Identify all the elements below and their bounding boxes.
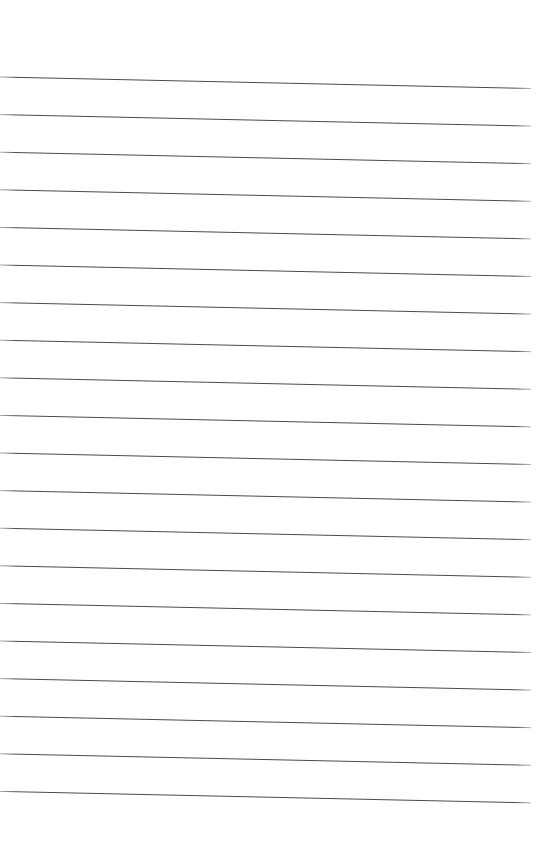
paper-background (0, 0, 536, 866)
lined-paper-page (0, 0, 536, 866)
ruling-lines-canvas (0, 0, 536, 866)
